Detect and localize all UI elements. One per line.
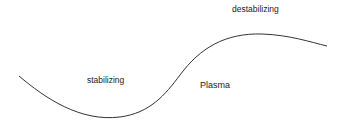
potential-curve	[0, 0, 347, 123]
destabilizing-label: destabilizing	[232, 4, 279, 14]
stabilizing-label: stabilizing	[87, 75, 124, 85]
diagram-canvas: destabilizing stabilizing Plasma	[0, 0, 347, 123]
plasma-label: Plasma	[200, 80, 230, 90]
